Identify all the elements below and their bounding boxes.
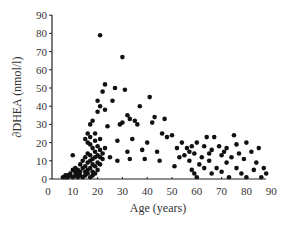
data-point <box>128 157 133 162</box>
data-point <box>214 166 219 171</box>
data-point <box>115 159 120 164</box>
y-tick-label: 70 <box>36 46 48 58</box>
data-point <box>212 135 217 140</box>
data-point <box>98 104 103 109</box>
data-point <box>93 139 98 144</box>
data-point <box>239 171 244 176</box>
data-point <box>123 88 128 93</box>
x-tick-label: 30 <box>117 185 129 197</box>
data-point <box>165 135 170 140</box>
data-point <box>217 144 222 149</box>
y-tick-label: 60 <box>36 64 48 76</box>
data-point <box>172 164 177 169</box>
x-tick-label: 90 <box>266 185 278 197</box>
scatter-chart: 0102030405060708090 0102030405060708090 … <box>0 0 290 228</box>
y-tick-label: 30 <box>36 118 48 130</box>
data-point <box>95 98 100 103</box>
x-tick-label: 20 <box>92 185 104 197</box>
data-point <box>170 133 175 138</box>
data-point <box>209 148 214 153</box>
y-tick-label: 40 <box>36 100 48 112</box>
data-point <box>128 117 133 122</box>
data-point <box>262 166 267 171</box>
data-point <box>120 55 125 60</box>
x-tick-label: 40 <box>142 185 154 197</box>
data-point <box>224 160 229 165</box>
data-point <box>125 149 130 154</box>
data-point <box>88 135 93 140</box>
data-point <box>190 144 195 149</box>
data-point <box>244 140 249 145</box>
data-point <box>202 166 207 171</box>
data-point <box>150 120 155 125</box>
data-point <box>135 122 140 127</box>
data-point <box>108 155 113 160</box>
data-point <box>115 139 120 144</box>
x-tick-label: 0 <box>45 185 51 197</box>
data-point <box>252 168 257 173</box>
y-tick-label: 0 <box>42 173 48 185</box>
data-point <box>130 137 135 142</box>
data-point <box>177 155 182 160</box>
data-point <box>103 108 108 113</box>
x-tick-label: 50 <box>167 185 179 197</box>
data-point <box>155 149 160 154</box>
x-axis-title: Age (years) <box>130 201 186 215</box>
data-point <box>145 140 150 145</box>
data-point <box>98 33 103 38</box>
x-tick-label: 60 <box>191 185 203 197</box>
data-points <box>61 33 269 180</box>
data-point <box>71 153 76 158</box>
data-point <box>105 124 110 129</box>
data-point <box>219 169 224 174</box>
y-axis-title: ∂DHEA (nmol/l) <box>10 57 24 138</box>
data-point <box>224 146 229 151</box>
data-point <box>182 153 187 158</box>
data-point <box>254 160 259 165</box>
data-point <box>237 151 242 156</box>
data-point <box>175 146 180 151</box>
data-point <box>100 151 105 156</box>
data-point <box>207 159 212 164</box>
y-tick-label: 50 <box>36 82 48 94</box>
data-point <box>202 144 207 149</box>
data-point <box>100 157 105 162</box>
data-point <box>187 159 192 164</box>
data-point <box>200 155 205 160</box>
data-point <box>197 162 202 167</box>
data-point <box>110 98 115 103</box>
data-point <box>195 140 200 145</box>
data-point <box>229 155 234 160</box>
data-point <box>98 162 103 167</box>
y-axis-ticks: 0102030405060708090 <box>36 9 52 185</box>
data-point <box>103 146 108 151</box>
data-point <box>142 157 147 162</box>
data-point <box>160 131 165 136</box>
data-point <box>140 148 145 153</box>
data-point <box>113 86 118 91</box>
data-point <box>138 104 143 109</box>
data-point <box>234 166 239 171</box>
y-tick-label: 20 <box>36 137 48 149</box>
y-tick-label: 90 <box>36 9 48 21</box>
data-point <box>100 89 105 94</box>
data-point <box>162 117 167 122</box>
data-point <box>157 159 162 164</box>
data-point <box>232 133 237 138</box>
y-tick-label: 10 <box>36 155 48 167</box>
data-point <box>93 131 98 136</box>
data-point <box>234 142 239 147</box>
x-axis-ticks: 0102030405060708090 <box>45 177 277 197</box>
data-point <box>209 171 214 176</box>
data-point <box>257 146 262 151</box>
data-point <box>95 109 100 114</box>
data-point <box>249 149 254 154</box>
data-point <box>95 168 100 173</box>
data-point <box>187 149 192 154</box>
data-point <box>242 157 247 162</box>
data-point <box>120 120 125 125</box>
data-point <box>103 82 108 87</box>
x-tick-label: 70 <box>216 185 228 197</box>
data-point <box>152 115 157 120</box>
data-point <box>192 151 197 156</box>
